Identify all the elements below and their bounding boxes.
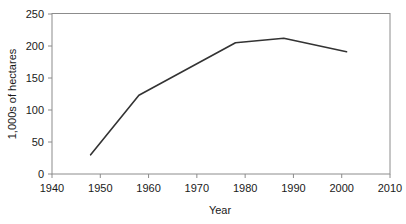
x-axis-tick-label: 1970 bbox=[185, 182, 209, 194]
x-axis-tick-label: 1950 bbox=[88, 182, 112, 194]
chart-container: 050100150200250 194019501960197019801990… bbox=[0, 0, 406, 224]
x-axis-tick-label: 1940 bbox=[40, 182, 64, 194]
y-axis-tick-label: 200 bbox=[26, 40, 44, 52]
y-axis-tick-label: 150 bbox=[26, 72, 44, 84]
y-axis-tick-label: 50 bbox=[32, 136, 44, 148]
line-chart: 050100150200250 194019501960197019801990… bbox=[0, 0, 406, 224]
data-line bbox=[91, 38, 347, 154]
y-axis-tick-labels: 050100150200250 bbox=[26, 8, 44, 180]
x-axis-tick-label: 2000 bbox=[329, 182, 353, 194]
y-axis-tick-label: 250 bbox=[26, 8, 44, 20]
x-axis-tick-label: 2010 bbox=[378, 182, 402, 194]
y-axis-title: 1,000s of hectares bbox=[6, 48, 18, 139]
x-axis-tick-label: 1960 bbox=[136, 182, 160, 194]
x-axis-title: Year bbox=[209, 204, 232, 216]
y-axis-ticks bbox=[48, 14, 52, 174]
x-axis-tick-label: 1980 bbox=[233, 182, 257, 194]
data-series-group bbox=[91, 38, 347, 154]
y-axis-tick-label: 100 bbox=[26, 104, 44, 116]
y-axis-tick-label: 0 bbox=[38, 168, 44, 180]
plot-area-frame bbox=[52, 14, 390, 175]
x-axis-tick-labels: 19401950196019701980199020002010 bbox=[40, 182, 402, 194]
x-axis-ticks bbox=[52, 174, 390, 178]
x-axis-tick-label: 1990 bbox=[281, 182, 305, 194]
